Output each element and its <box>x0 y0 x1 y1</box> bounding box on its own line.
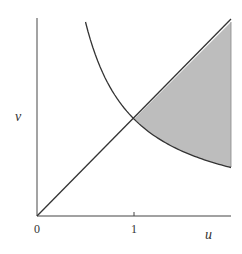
shaded-region <box>134 22 231 168</box>
x-tick-label-0: 0 <box>34 222 40 236</box>
x-tick-label-1: 1 <box>131 222 137 236</box>
y-axis-label: v <box>15 109 22 124</box>
x-axis-label: u <box>205 227 212 242</box>
figure: v u 0 1 <box>0 0 242 254</box>
